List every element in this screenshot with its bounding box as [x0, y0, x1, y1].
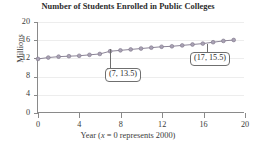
data-point-marker	[119, 48, 123, 52]
x-tick-mark	[38, 113, 39, 118]
x-tick-mark	[204, 113, 205, 118]
data-point-callout: (7, 13.5)	[105, 68, 141, 82]
data-point-marker	[98, 52, 102, 56]
x-tick-label: 12	[150, 120, 174, 129]
x-tick-label: 16	[192, 120, 216, 129]
enrollment-line-chart: Number of Students Enrolled in Public Co…	[0, 0, 256, 150]
data-point-marker	[88, 53, 92, 57]
data-point-marker	[201, 42, 205, 46]
x-axis-label-prefix: Year (	[81, 131, 101, 140]
data-point-marker	[211, 40, 215, 44]
y-tick-label: 12	[8, 53, 30, 62]
x-axis-label-suffix: = 0 represents 2000)	[105, 131, 176, 140]
x-tick-mark	[162, 113, 163, 118]
chart-title: Number of Students Enrolled in Public Co…	[0, 2, 256, 11]
data-point-marker	[160, 45, 164, 49]
x-tick-label: 4	[67, 120, 91, 129]
data-point-marker	[36, 57, 40, 61]
data-point-marker	[180, 44, 184, 48]
y-tick-label: 20	[8, 17, 30, 26]
plot-area: 048121620 048121620	[37, 22, 244, 113]
x-tick-label: 20	[233, 120, 256, 129]
callout-leader-line	[110, 49, 111, 69]
data-point-marker	[57, 55, 61, 59]
data-series	[38, 22, 244, 112]
x-axis-label: Year (x = 0 represents 2000)	[0, 131, 256, 140]
y-tick-label: 16	[8, 35, 30, 44]
x-tick-label: 0	[26, 120, 50, 129]
y-tick-label: 0	[8, 108, 30, 117]
data-point-marker	[46, 56, 50, 60]
data-point-marker	[232, 38, 236, 42]
x-tick-mark	[121, 113, 122, 118]
data-point-marker	[139, 47, 143, 51]
y-tick-label: 4	[8, 89, 30, 98]
data-point-marker	[191, 43, 195, 47]
data-point-marker	[67, 54, 71, 58]
x-tick-label: 8	[109, 120, 133, 129]
x-tick-mark	[245, 113, 246, 118]
data-point-marker	[170, 44, 174, 48]
data-point-marker	[222, 39, 226, 43]
data-point-marker	[77, 54, 81, 58]
data-point-marker	[129, 48, 133, 52]
y-tick-label: 8	[8, 71, 30, 80]
data-point-callout: (17, 15.5)	[190, 52, 230, 66]
x-tick-mark	[79, 113, 80, 118]
data-point-marker	[149, 46, 153, 50]
